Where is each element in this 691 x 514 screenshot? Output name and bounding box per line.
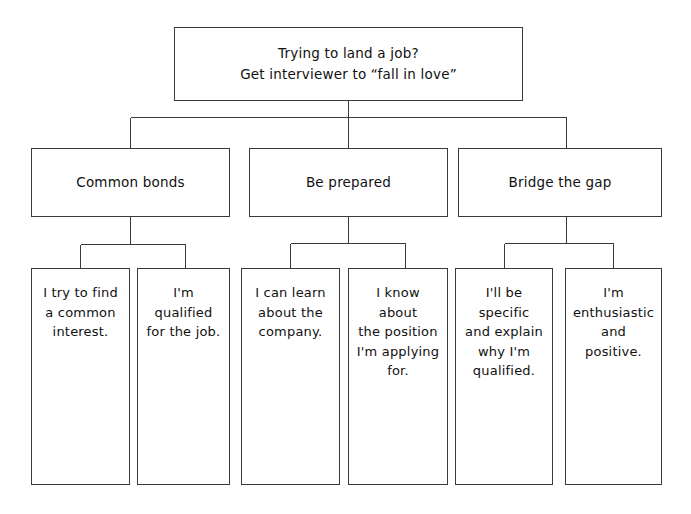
node-branch-2-label: Be prepared	[306, 173, 391, 193]
node-branch-3-label: Bridge the gap	[509, 173, 612, 193]
node-leaf-1-2-label: I'm qualified for the job.	[144, 283, 223, 342]
node-leaf-2-1-label: I can learn about the company.	[255, 283, 326, 342]
diagram-canvas: Trying to land a job? Get interviewer to…	[0, 0, 691, 514]
node-leaf-common-bonds-1[interactable]: I try to find a common interest.	[31, 268, 130, 485]
node-branch-bridge-the-gap[interactable]: Bridge the gap	[458, 148, 662, 217]
node-branch-1-label: Common bonds	[76, 173, 184, 193]
node-leaf-bridge-the-gap-2[interactable]: I'm enthusiastic and positive.	[565, 268, 662, 485]
node-leaf-3-1-label: I'll be specific and explain why I'm qua…	[462, 283, 546, 381]
node-leaf-be-prepared-2[interactable]: I know about the position I'm applying f…	[348, 268, 448, 485]
node-leaf-be-prepared-1[interactable]: I can learn about the company.	[241, 268, 340, 485]
node-leaf-1-1-label: I try to find a common interest.	[43, 283, 118, 342]
node-leaf-2-2-label: I know about the position I'm applying f…	[355, 283, 441, 381]
node-branch-common-bonds[interactable]: Common bonds	[31, 148, 230, 217]
node-root-label: Trying to land a job? Get interviewer to…	[240, 43, 457, 85]
node-leaf-bridge-the-gap-1[interactable]: I'll be specific and explain why I'm qua…	[455, 268, 553, 485]
node-leaf-common-bonds-2[interactable]: I'm qualified for the job.	[137, 268, 230, 485]
node-branch-be-prepared[interactable]: Be prepared	[249, 148, 448, 217]
node-root[interactable]: Trying to land a job? Get interviewer to…	[174, 27, 523, 101]
node-leaf-3-2-label: I'm enthusiastic and positive.	[572, 283, 655, 361]
